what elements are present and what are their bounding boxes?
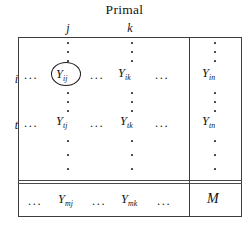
vertical-ellipsis-j-top <box>66 42 70 62</box>
vertical-ellipsis-k-bottom <box>130 140 134 170</box>
matrix-cell-in-subscript: in <box>209 73 215 82</box>
horizontal-ellipsis-row-i-left: ... <box>24 68 38 83</box>
horizontal-ellipsis-row-t-left: ... <box>24 116 38 131</box>
highlight-circle <box>51 62 81 86</box>
matrix-cell-in-base: Y <box>202 66 209 80</box>
matrix-cell-tn: Ytn <box>202 114 215 129</box>
vertical-ellipsis-n-bottom <box>213 140 217 170</box>
matrix-cell-tn-base: Y <box>202 114 209 128</box>
matrix-cell-mk-base: Y <box>121 192 128 206</box>
horizontal-ellipsis-row-t-mid: ... <box>90 116 104 131</box>
vertical-ellipsis-n-middle <box>213 92 217 112</box>
matrix-cell-ik: Yik <box>118 66 131 81</box>
figure-title: Primal <box>0 2 249 18</box>
vertical-ellipsis-k-middle <box>130 92 134 112</box>
matrix-cell-mk: Ymk <box>121 192 137 207</box>
matrix-cell-mj-base: Y <box>58 192 65 206</box>
matrix-cell-tk-subscript: tk <box>127 121 133 130</box>
matrix-cell-tj-base: Y <box>56 114 63 128</box>
matrix-cell-tj-subscript: tj <box>63 121 68 130</box>
vertical-ellipsis-j-bottom <box>66 140 70 170</box>
matrix-cell-tk-base: Y <box>120 114 127 128</box>
margin-column-separator <box>189 37 190 217</box>
vertical-ellipsis-n-top <box>213 42 217 62</box>
horizontal-ellipsis-row-t-right: ... <box>155 116 169 131</box>
horizontal-ellipsis-row-m-mid: ... <box>92 194 106 209</box>
matrix-cell-mj-subscript: mj <box>65 199 73 208</box>
column-header-k: k <box>122 21 138 36</box>
matrix-cell-ik-subscript: ik <box>125 73 131 82</box>
horizontal-ellipsis-row-i-mid: ... <box>90 68 104 83</box>
horizontal-ellipsis-row-m-right: ... <box>157 194 171 209</box>
grand-total-label: M <box>207 191 219 207</box>
matrix-cell-tj: Ytj <box>56 114 68 129</box>
matrix-cell-ik-base: Y <box>118 66 125 80</box>
matrix-cell-tn-subscript: tn <box>209 121 215 130</box>
margin-row-separator <box>18 180 242 184</box>
matrix-cell-mk-subscript: mk <box>128 199 138 208</box>
vertical-ellipsis-k-top <box>130 42 134 62</box>
matrix-cell-tk: Ytk <box>120 114 133 129</box>
horizontal-ellipsis-row-m-left: ... <box>28 194 42 209</box>
matrix-cell-mj: Ymj <box>58 192 73 207</box>
row-label-i: i <box>6 72 18 87</box>
matrix-cell-in: Yin <box>202 66 215 81</box>
row-label-t: t <box>6 118 18 133</box>
horizontal-ellipsis-row-i-right: ... <box>155 68 169 83</box>
vertical-ellipsis-j-middle <box>66 92 70 112</box>
column-header-j: j <box>60 21 76 36</box>
